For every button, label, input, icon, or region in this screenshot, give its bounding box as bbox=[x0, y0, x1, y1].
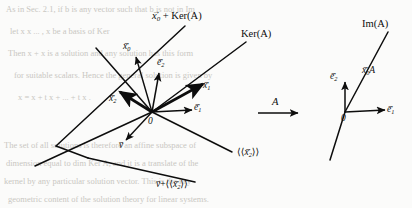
accent-glyph: → bbox=[157, 55, 164, 62]
vector-accent-e2: → e2 bbox=[330, 72, 337, 82]
accent-glyph: → bbox=[117, 138, 124, 145]
vector-accent-x2: → x2 bbox=[244, 148, 251, 158]
label-text: Im(A) bbox=[362, 18, 388, 29]
accent-glyph: → bbox=[152, 8, 160, 16]
bracket-close: ⟩⟩ bbox=[180, 179, 187, 189]
vector-e1 bbox=[152, 110, 192, 112]
linear-algebra-figure: As in Sec. 2.1, if b is any vector such … bbox=[0, 0, 412, 208]
vector-e1-image bbox=[345, 110, 385, 112]
vector-accent-x0: → x0 bbox=[123, 42, 130, 52]
accent-glyph: → bbox=[244, 145, 251, 152]
label-x0: → x0 bbox=[123, 42, 130, 52]
label-x0A: → x0 A bbox=[362, 66, 375, 76]
label-im: Im(A) bbox=[362, 19, 388, 30]
label-suffix: + Ker(A) bbox=[160, 10, 202, 21]
label-v: → v bbox=[119, 141, 123, 151]
label-ker: Ker(A) bbox=[241, 29, 271, 40]
vector-accent-e2: → e2 bbox=[157, 58, 164, 68]
accent-glyph: → bbox=[194, 100, 201, 107]
vector-accent-x0: → x0 bbox=[362, 66, 369, 76]
label-v-plus-span-x2: → v +⟨⟨ → x2 ⟩⟩ bbox=[156, 180, 188, 190]
label-e1: → e1 bbox=[194, 103, 201, 113]
label-map-A: A bbox=[272, 97, 278, 108]
accent-glyph: → bbox=[173, 177, 180, 184]
vector-accent-e1: → e1 bbox=[194, 103, 201, 113]
vector-accent-v: → v bbox=[119, 141, 123, 151]
accent-glyph: → bbox=[123, 39, 130, 46]
label-text: 0 bbox=[148, 116, 153, 126]
label-x2: → x2 bbox=[109, 94, 116, 104]
accent-glyph: → bbox=[109, 91, 116, 98]
accent-glyph: → bbox=[387, 102, 394, 109]
accent-glyph: → bbox=[362, 63, 369, 70]
label-e1-image: → e1 bbox=[387, 105, 394, 115]
label-origin-right: 0 bbox=[341, 114, 346, 124]
bracket-close: ⟩⟩ bbox=[252, 147, 259, 157]
line-parallel-upper bbox=[33, 46, 96, 48]
label-x0-plus-ker: → x0 + Ker(A) bbox=[152, 11, 202, 23]
vector-accent-v: → v bbox=[156, 180, 160, 190]
label-x1: → x1 bbox=[203, 81, 210, 91]
accent-glyph: → bbox=[330, 69, 337, 76]
label-span-x2: ⟨⟨ → x2 ⟩⟩ bbox=[237, 148, 259, 158]
vector-e2 bbox=[152, 73, 159, 112]
vector-accent-e1: → e1 bbox=[387, 105, 394, 115]
label-text: 0 bbox=[341, 113, 346, 123]
figure-canvas bbox=[0, 0, 412, 208]
accent-glyph: → bbox=[154, 177, 161, 184]
vector-accent-x1: → x1 bbox=[203, 81, 210, 91]
label-suffix: A bbox=[369, 65, 375, 75]
vector-accent-x2: → x2 bbox=[109, 94, 116, 104]
label-e2-image: → e2 bbox=[330, 72, 337, 82]
line-im bbox=[330, 32, 388, 160]
label-text: Ker(A) bbox=[241, 28, 271, 39]
vector-accent-x0: → x0 bbox=[152, 11, 160, 23]
vector-accent-x2: → x2 bbox=[173, 180, 180, 190]
label-origin-left: 0 bbox=[148, 117, 153, 127]
accent-glyph: → bbox=[203, 78, 210, 85]
label-e2: → e2 bbox=[157, 58, 164, 68]
line-x0-plus-ker bbox=[56, 26, 185, 146]
label-text: A bbox=[272, 96, 278, 107]
bracket-open: ⟨⟨ bbox=[166, 179, 173, 189]
